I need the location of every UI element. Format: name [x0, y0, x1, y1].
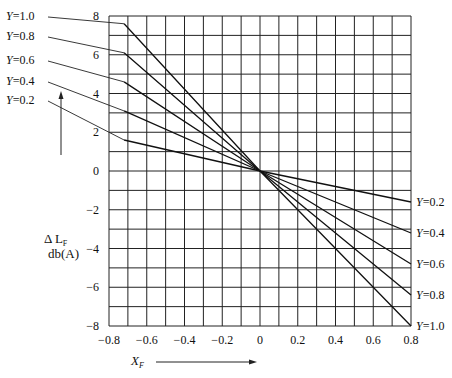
series-line: [124, 24, 411, 326]
x-tick-label: −0.6: [136, 333, 158, 347]
legend-left-label: Y=0.6: [6, 53, 34, 67]
legend-leader-line: [48, 61, 124, 82]
y-tick-label: −2: [86, 203, 99, 217]
x-tick-label: −0.8: [98, 333, 120, 347]
y-tick-label: 0: [93, 164, 99, 178]
x-tick-labels: −0.8−0.6−0.4−0.200.20.40.60.8: [98, 333, 418, 347]
legend-right-label: Y=0.4: [416, 226, 444, 240]
x-tick-label: 0.8: [404, 333, 419, 347]
y-tick-label: 6: [93, 48, 99, 62]
y-axis-label: Δ LF db(A): [44, 91, 79, 261]
legend-left-label: Y=0.8: [6, 29, 34, 43]
legend-left-label: Y=0.4: [6, 74, 34, 88]
x-arrow-head-icon: [249, 360, 257, 365]
x-axis-label: XF: [130, 353, 257, 370]
chart: 86420−2−4−6−8 −0.8−0.6−0.4−0.200.20.40.6…: [0, 0, 452, 378]
legend-right: Y=0.2Y=0.4Y=0.6Y=0.8Y=1.0: [416, 195, 444, 333]
y-tick-label: −4: [86, 242, 99, 256]
y-tick-labels: 86420−2−4−6−8: [86, 9, 99, 333]
y-tick-label: −6: [86, 280, 99, 294]
legend-right-label: Y=0.2: [416, 195, 444, 209]
legend-right-label: Y=1.0: [416, 319, 444, 333]
x-tick-label: 0.4: [328, 333, 343, 347]
x-label-sub: F: [138, 361, 144, 370]
legend-leader-line: [48, 17, 124, 24]
series-lines: [124, 24, 411, 326]
legend-left-label: Y=1.0: [6, 9, 34, 23]
y-arrow-head-icon: [59, 91, 64, 99]
x-tick-label: −0.4: [174, 333, 196, 347]
svg-text:XF: XF: [130, 353, 144, 370]
y-tick-label: −8: [86, 319, 99, 333]
x-tick-label: 0: [257, 333, 263, 347]
y-tick-label: 2: [93, 125, 99, 139]
legend-left-label: Y=0.2: [6, 93, 34, 107]
legend-leader-line: [48, 37, 124, 53]
x-tick-label: 0.2: [290, 333, 305, 347]
y-label-units: db(A): [48, 246, 79, 261]
x-tick-label: 0.6: [366, 333, 381, 347]
y-tick-label: 4: [93, 87, 99, 101]
legend-right-label: Y=0.6: [416, 257, 444, 271]
y-label-delta: Δ L: [44, 231, 63, 246]
legend-left: Y=1.0Y=0.8Y=0.6Y=0.4Y=0.2: [6, 9, 34, 107]
legend-right-label: Y=0.8: [416, 288, 444, 302]
x-tick-label: −0.2: [211, 333, 233, 347]
y-tick-label: 8: [93, 9, 99, 23]
